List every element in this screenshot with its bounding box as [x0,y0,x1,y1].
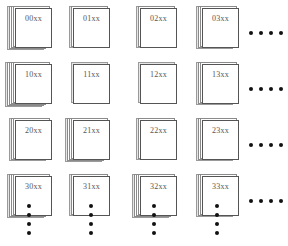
block-front-face: 13xx [202,64,239,104]
block-label: 32xx [141,182,176,191]
dot [259,143,263,147]
block-label: 02xx [141,14,176,23]
block-label: 21xx [74,126,109,135]
dot [89,231,93,235]
stacked-block-21xx: 21xx [65,118,110,166]
horizontal-ellipsis-icon [249,143,287,149]
dot [279,31,283,35]
block-front-face: 03xx [202,8,239,48]
dot [279,199,283,203]
stacked-block-01xx: 01xx [69,6,110,52]
block-label: 31xx [74,182,109,191]
dot [215,231,219,235]
block-front-face: 12xx [140,64,177,104]
block-front-face: 00xx [15,8,52,48]
block-front-face: 20xx [15,120,52,160]
dot [249,87,253,91]
block-front-face: 10xx [15,64,52,104]
block-label: 11xx [74,70,109,79]
dot [269,31,273,35]
dot [27,222,31,226]
horizontal-ellipsis-icon [249,199,287,205]
dot [269,143,273,147]
vertical-ellipsis-icon [27,204,33,238]
dot [27,213,31,217]
dot [249,199,253,203]
stacked-block-20xx: 20xx [9,118,52,165]
dot [152,204,156,208]
block-label: 30xx [16,182,51,191]
block-front-face: 22xx [140,120,177,160]
dot [269,87,273,91]
block-label: 00xx [16,14,51,23]
stacked-block-12xx: 12xx [138,62,177,107]
block-front-face: 01xx [73,8,110,48]
block-label: 33xx [203,182,238,191]
block-front-face: 23xx [202,120,239,160]
dot [152,231,156,235]
dot [279,87,283,91]
dot [259,31,263,35]
block-label: 10xx [16,70,51,79]
block-label: 03xx [203,14,238,23]
dot [259,87,263,91]
stacked-block-23xx: 23xx [196,118,239,165]
block-label: 20xx [16,126,51,135]
dot [269,199,273,203]
stacked-block-13xx: 13xx [196,62,239,109]
dot [279,143,283,147]
dot [89,213,93,217]
stacked-block-00xx: 00xx [7,6,52,54]
stacked-block-11xx: 11xx [71,62,110,107]
stacked-block-03xx: 03xx [196,6,239,53]
horizontal-ellipsis-icon [249,31,287,37]
vertical-ellipsis-icon [152,204,158,238]
block-label: 01xx [74,14,109,23]
dot [249,143,253,147]
dot [152,222,156,226]
dot [89,222,93,226]
block-front-face: 02xx [140,8,177,48]
block-front-face: 21xx [73,120,110,160]
dot [152,213,156,217]
block-label: 13xx [203,70,238,79]
vertical-ellipsis-icon [89,204,95,238]
dot [215,222,219,226]
dot [27,231,31,235]
block-label: 22xx [141,126,176,135]
dot [89,204,93,208]
block-label: 12xx [141,70,176,79]
dot [215,213,219,217]
vertical-ellipsis-icon [215,204,221,238]
stacked-block-22xx: 22xx [136,118,177,164]
dot [249,31,253,35]
block-front-face: 32xx [140,176,177,216]
block-front-face: 11xx [73,64,110,104]
block-front-face: 30xx [15,176,52,216]
stacked-block-10xx: 10xx [5,62,52,111]
block-label: 23xx [203,126,238,135]
dot [27,204,31,208]
dot [215,204,219,208]
dot [259,199,263,203]
stacked-block-02xx: 02xx [136,6,177,52]
horizontal-ellipsis-icon [249,87,287,93]
